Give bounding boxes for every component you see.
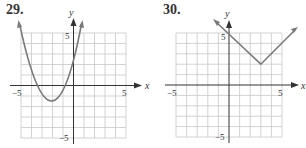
x-min-tick: −5	[167, 88, 177, 98]
graph-29: x y −5 5 5 −5	[0, 0, 153, 148]
y-axis-arrow-icon	[71, 18, 77, 26]
y-min-tick: −5	[215, 132, 225, 142]
y-axis-label: y	[68, 7, 74, 18]
y-axis-arrow-icon	[226, 20, 232, 28]
x-min-tick: −5	[12, 88, 22, 98]
axes	[165, 24, 293, 143]
y-min-tick: −5	[59, 133, 69, 143]
x-axis-arrow-icon	[291, 82, 299, 88]
x-axis-label: x	[300, 80, 306, 91]
curve-arrow-left-icon	[17, 20, 22, 28]
graph-panel-29: 29. x y −5 5 5 −5	[0, 0, 153, 148]
y-axis-label: y	[224, 8, 230, 19]
parabola-curve	[20, 24, 82, 101]
graph-panel-30: 30. x y −5 5 5 −5	[153, 0, 306, 148]
y-max-tick: 5	[65, 31, 70, 41]
x-axis-arrow-icon	[134, 83, 142, 89]
y-max-tick: 5	[221, 32, 226, 42]
x-max-tick: 5	[122, 88, 127, 98]
curve-arrow-right-icon	[79, 20, 84, 28]
graph-30: x y −5 5 5 −5	[153, 0, 306, 148]
axes	[10, 22, 136, 144]
x-max-tick: 5	[278, 88, 283, 98]
x-axis-label: x	[144, 80, 150, 91]
